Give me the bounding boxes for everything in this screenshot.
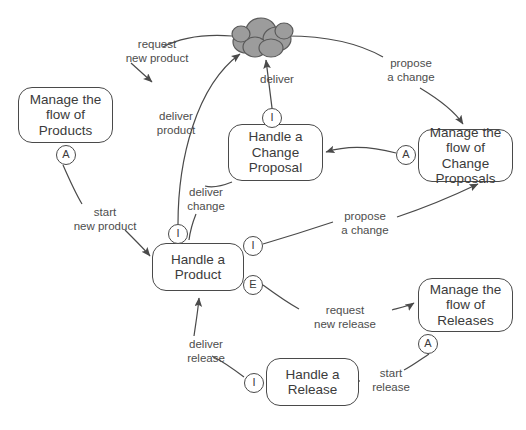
wire-request-new-release (392, 303, 414, 310)
node-manage-flow-of-change-proposals[interactable]: Manage the flow of Change Proposals (418, 129, 513, 182)
port-products-agreement[interactable]: A (56, 145, 76, 165)
node-manage-flow-of-products[interactable]: Manage the flow of Products (18, 87, 113, 143)
wire-cloud-to-label-propose (287, 36, 383, 57)
node-label: Handle a Change Proposal (248, 129, 302, 176)
port-release-interface[interactable]: I (244, 373, 264, 393)
edge-label-deliver-product: deliver product (145, 110, 207, 137)
node-handle-a-change-proposal[interactable]: Handle a Change Proposal (228, 124, 323, 181)
edge-label-request-new-product: request new product (109, 38, 205, 65)
edge-label-start-new-product: start new product (62, 206, 148, 233)
port-releases-agreement[interactable]: A (418, 334, 438, 354)
wire-deliver-release (194, 298, 199, 336)
edge-label-start-release: start release (362, 367, 420, 394)
wire-deliver-change-stub (189, 214, 196, 240)
port-product-event-right[interactable]: E (243, 275, 263, 295)
node-label: Handle a Release (285, 367, 339, 398)
edge-label-propose-a-change-top: propose a change (380, 57, 442, 84)
wire-product-to-label-release (263, 285, 299, 309)
port-product-interface-right[interactable]: I (243, 236, 263, 256)
wire-change-proposals-to-handle (326, 148, 396, 153)
cloud-stakeholders-icon (228, 12, 294, 64)
node-label: Handle a Product (171, 252, 225, 283)
wire-request-new-product (131, 63, 152, 82)
node-label: Manage the flow of Change Proposals (423, 125, 508, 187)
wire-products-a-stub (63, 165, 82, 204)
wire-propose-a-change-top (420, 88, 463, 124)
edge-label-deliver-release: deliver release (175, 338, 237, 365)
port-change-proposals-agreement[interactable]: A (396, 145, 416, 165)
edge-label-deliver: deliver (247, 73, 307, 87)
node-label: Manage the flow of Products (30, 92, 101, 139)
node-label: Manage the flow of Releases (430, 282, 501, 329)
node-handle-a-product[interactable]: Handle a Product (152, 243, 244, 291)
wire-product-to-label-propose-low (263, 222, 333, 244)
edge-label-deliver-change: deliver change (175, 186, 237, 213)
port-product-interface-top[interactable]: I (168, 224, 188, 244)
diagram-canvas: Manage the flow of Products Handle a Cha… (0, 0, 526, 430)
wire-start-new-product (125, 230, 150, 256)
node-manage-flow-of-releases[interactable]: Manage the flow of Releases (418, 278, 513, 332)
port-change-proposal-interface[interactable]: I (262, 108, 282, 128)
node-handle-a-release[interactable]: Handle a Release (266, 358, 359, 406)
edge-label-request-new-release: request new release (300, 304, 390, 331)
edge-label-propose-a-change-lower: propose a change (334, 210, 396, 237)
wire-propose-a-change-low (397, 184, 478, 217)
